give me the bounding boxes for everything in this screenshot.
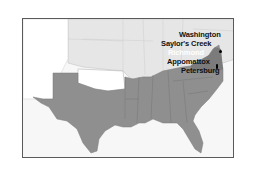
label-saylors-creek: Saylor's Creek	[161, 40, 211, 48]
map-frame: Washington Saylor's Creek Richmond Appom…	[22, 18, 234, 158]
washington-marker-icon	[219, 50, 222, 53]
label-richmond: Richmond	[168, 49, 204, 57]
label-washington: Washington	[179, 31, 221, 39]
label-appomattox: Appomattox	[167, 58, 210, 66]
label-petersburg: Petersburg	[181, 67, 220, 75]
